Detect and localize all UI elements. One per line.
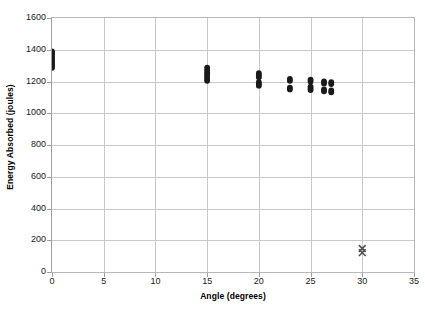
x-axis-tick-label: 30	[347, 277, 377, 286]
x-axis-tick-label: 35	[399, 277, 425, 286]
scatter-chart: Energy Absorbed (joules) 020040060080010…	[0, 0, 425, 311]
x-axis-tick-mark	[52, 273, 53, 277]
x-axis-tick-label: 25	[296, 277, 326, 286]
x-axis-tick-label: 20	[244, 277, 274, 286]
x-axis-tick-mark	[104, 273, 105, 277]
x-axis-tick-mark	[259, 273, 260, 277]
x-axis-title: Angle (degrees)	[51, 291, 415, 301]
x-axis-tick-mark	[311, 273, 312, 277]
x-axis-tick-mark	[362, 273, 363, 277]
x-axis-tick-label: 10	[140, 277, 170, 286]
x-axis-tick-label: 5	[89, 277, 119, 286]
x-axis-tick-mark	[414, 273, 415, 277]
x-axis-tick-label: 0	[37, 277, 67, 286]
x-axis-tick-label: 15	[192, 277, 222, 286]
x-axis-tick-mark	[207, 273, 208, 277]
x-axis-tick-labels: 05101520253035	[0, 0, 425, 311]
x-axis-tick-mark	[155, 273, 156, 277]
